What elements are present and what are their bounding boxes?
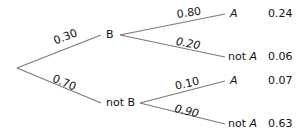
outcome-label: A xyxy=(250,50,258,63)
node-B: B xyxy=(106,29,114,41)
joint-prob-4: 0.63 xyxy=(268,118,293,130)
outcome-prefix: not xyxy=(228,117,246,130)
outcome-notA-1: not A xyxy=(228,51,257,63)
outcome-A-1: A xyxy=(230,8,238,20)
outcome-notA-2: not A xyxy=(228,118,257,130)
outcome-label: A xyxy=(230,74,238,87)
branch-B-to-notA xyxy=(120,35,225,57)
joint-prob-2: 0.06 xyxy=(268,51,293,63)
outcome-label: A xyxy=(250,117,258,130)
branch-B-to-A xyxy=(120,14,225,35)
node-notB: not B xyxy=(106,97,135,109)
outcome-A-2: A xyxy=(230,75,238,87)
joint-prob-3: 0.07 xyxy=(268,75,293,87)
outcome-prefix: not xyxy=(228,50,246,63)
outcome-label: A xyxy=(230,7,238,20)
joint-prob-1: 0.24 xyxy=(268,8,293,20)
